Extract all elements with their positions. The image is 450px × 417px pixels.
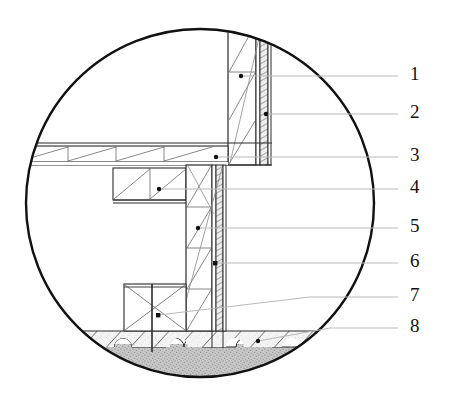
beam-body bbox=[113, 168, 186, 200]
callout-number-6: 6 bbox=[410, 250, 420, 271]
wall-upper-inner-leaf bbox=[256, 24, 260, 165]
floor-slab-body bbox=[20, 146, 228, 162]
callout-number-2: 2 bbox=[410, 101, 420, 122]
wall-lower-outer-render bbox=[223, 165, 226, 331]
wall-upper-insulation bbox=[260, 26, 268, 165]
callout-number-4: 4 bbox=[410, 176, 420, 197]
leader-dot-3 bbox=[214, 155, 218, 159]
wall-upper-assembly bbox=[228, 24, 271, 165]
wall-lower-insulation bbox=[216, 165, 223, 331]
leader-dot-7 bbox=[156, 313, 160, 317]
leader-dot-4 bbox=[157, 187, 161, 191]
detail-drawing: 1 2 3 4 5 6 7 8 bbox=[0, 0, 450, 417]
callout-number-8: 8 bbox=[410, 315, 420, 336]
callout-number-7: 7 bbox=[410, 284, 420, 305]
wall-lower-inner-leaf bbox=[212, 165, 216, 331]
wall-upper-core bbox=[228, 24, 256, 165]
callout-number-3: 3 bbox=[410, 144, 420, 165]
leader-dot-1 bbox=[239, 74, 243, 78]
callout-number-1: 1 bbox=[410, 63, 420, 84]
beam-assembly bbox=[113, 168, 186, 203]
callout-number-5: 5 bbox=[410, 215, 420, 236]
leader-dot-2 bbox=[264, 112, 268, 116]
wall-upper-outer-render bbox=[268, 26, 271, 165]
leader-dot-8 bbox=[256, 339, 260, 343]
leader-dot-5 bbox=[196, 226, 200, 230]
leader-dot-6 bbox=[213, 261, 217, 265]
